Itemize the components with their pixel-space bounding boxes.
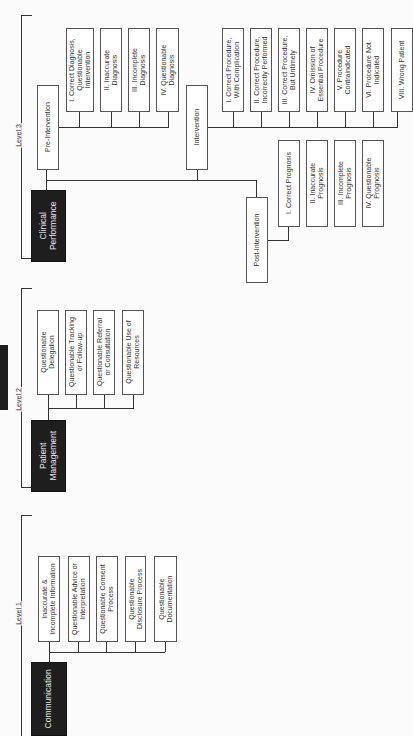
- patient-management-node: Patient Management: [31, 420, 66, 492]
- pre-item-2: II. Inaccurate Diagnosis: [100, 28, 122, 112]
- pre-intervention-node: Pre-Intervention: [37, 85, 59, 170]
- comm-item-4: Questionable Disclosure Process: [125, 556, 146, 642]
- intervention-item-4: IV. Omission of Essential Procedure: [306, 28, 328, 112]
- dark-artifact: [0, 345, 8, 410]
- pm-item-3: Questionable Referral or Consultation: [93, 310, 115, 395]
- post-item-2: II. Inaccurate Prognosis: [306, 140, 328, 227]
- post-item-1: I. Correct Prognosis: [278, 140, 300, 227]
- post-item-4: IV. Questionable Prognosis: [362, 140, 384, 227]
- comm-item-2: Questionable Advice or Interpretation: [68, 556, 90, 642]
- intervention-node: Intervention: [186, 85, 208, 170]
- intervention-item-6: VI. Procedure Not Indicated: [362, 28, 384, 112]
- clinical-performance-node: Clinical Performance: [31, 190, 66, 262]
- pre-item-3: III. Incomplete Diagnosis: [128, 28, 150, 112]
- intervention-item-1: I. Correct Procedure, With Complication: [222, 28, 244, 112]
- pm-item-2: Questionable Tracking or Follow-up: [65, 310, 87, 395]
- pm-item-1: Questionable Delegation: [37, 310, 59, 395]
- comm-item-3: Questionable Consent Process: [96, 556, 118, 642]
- post-item-3: III. Incomplete Prognosis: [334, 140, 356, 227]
- intervention-item-5: V. Procedure Contraindicated: [334, 28, 356, 112]
- comm-item-5: Questionable Documentation: [154, 556, 177, 642]
- pre-item-4: IV. Questionable Diagnosis: [156, 28, 179, 112]
- pm-item-4: Questionable Use of Resources: [122, 310, 144, 395]
- post-intervention-node: Post-Intervention: [246, 197, 268, 283]
- level-3-label: Level 3: [15, 123, 22, 148]
- level-2-label: Level 2: [15, 387, 22, 412]
- pre-item-1: I. Correct Diagnosis, Questionable Inter…: [66, 28, 94, 112]
- intervention-item-2: II. Correct Procedure, Incorrectly Perfo…: [250, 28, 272, 112]
- intervention-item-3: III. Correct Procedure, But Untimely: [278, 28, 300, 112]
- comm-item-1: Inaccurate & Incomplete Information: [38, 556, 60, 642]
- intervention-item-7: VIII. Wrong Patient: [391, 28, 413, 112]
- level-1-label: Level 1: [15, 601, 22, 626]
- communication-node: Communication: [31, 662, 67, 736]
